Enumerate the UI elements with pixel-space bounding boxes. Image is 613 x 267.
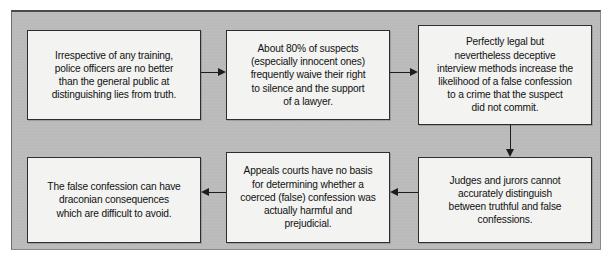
node-judges-jurors: Judges and jurors cannot accurately dist…: [418, 157, 592, 243]
node-police-training: Irrespective of any training, police off…: [27, 30, 201, 120]
node-judges-jurors-text: Judges and jurors cannot accurately dist…: [425, 174, 585, 227]
arrow-left-icon: [201, 184, 226, 200]
arrow-shaft: [510, 125, 511, 151]
arrow-head: [201, 188, 209, 196]
arrow-head: [410, 68, 418, 76]
arrow-head: [506, 149, 514, 157]
arrow-right-icon: [390, 64, 418, 80]
flowchart-diagram: Irrespective of any training, police off…: [0, 0, 613, 267]
node-appeals-courts: Appeals courts have no basis for determi…: [226, 152, 390, 243]
node-appeals-courts-text: Appeals courts have no basis for determi…: [233, 164, 383, 230]
arrow-shaft: [396, 192, 418, 193]
arrow-right-icon: [201, 64, 226, 80]
arrow-shaft: [207, 192, 226, 193]
node-police-training-text: Irrespective of any training, police off…: [34, 49, 194, 102]
node-rights-waiver-text: About 80% of suspects (especially innoce…: [233, 42, 383, 108]
arrow-down-icon: [502, 125, 518, 157]
arrow-left-icon: [390, 184, 418, 200]
node-draconian-consequences: The false confession can have draconian …: [27, 157, 201, 243]
arrow-head: [218, 68, 226, 76]
arrow-shaft: [390, 72, 412, 73]
node-rights-waiver: About 80% of suspects (especially innoce…: [226, 30, 390, 120]
arrow-head: [390, 188, 398, 196]
node-deceptive-interview-text: Perfectly legal but nevertheless decepti…: [425, 35, 585, 114]
node-deceptive-interview: Perfectly legal but nevertheless decepti…: [418, 25, 592, 125]
node-draconian-consequences-text: The false confession can have draconian …: [34, 180, 194, 220]
